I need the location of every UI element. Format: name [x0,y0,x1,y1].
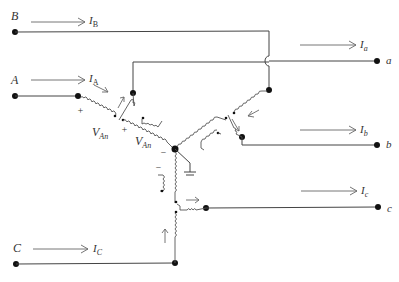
plus-mark-1: + [77,105,84,116]
node-b-top [266,87,272,93]
label-ib-out: Ib [359,123,368,138]
minus-mark-2: − [155,162,162,173]
arrow-ic-out [301,187,357,195]
label-a: A [10,73,19,87]
terminal-b-wire [12,29,272,93]
terminal-c-wire [13,260,178,267]
label-b: B [11,9,19,23]
label-ic: IC [92,242,103,257]
terminal-a-wire [12,93,81,99]
minus-mark-1: − [160,147,167,158]
terminal-c-out-node [375,204,381,210]
arrow-ic [33,245,88,253]
phase-b-winding [177,91,267,150]
terminal-b-out-node [374,142,380,148]
arrow-ia [31,76,85,84]
label-out-b: b [386,138,392,150]
label-van-1: VAn [92,125,108,141]
label-ia-out: Ia [359,38,368,53]
terminal-a-out-node [374,58,380,64]
output-b-wire [239,134,380,148]
label-out-c: c [387,202,392,214]
label-ia: IA [88,72,99,87]
circuit-diagram: B IB A IA a Ia b Ib c Ic [0,0,399,282]
ground-icon [175,149,196,175]
label-ib: IB [88,14,98,29]
label-ic-out: Ic [360,184,369,199]
arrow-ia-out [300,41,356,49]
output-a-wire [130,58,380,96]
output-c-wire [203,204,381,211]
arrow-ib [31,18,85,26]
phase-c-winding [158,152,206,263]
label-c: C [13,241,22,255]
plus-mark-2: + [121,124,128,135]
arrow-ib-out [300,126,356,134]
label-van-2: VAn [135,134,151,150]
label-out-a: a [386,54,392,66]
node-a-in [75,93,81,99]
